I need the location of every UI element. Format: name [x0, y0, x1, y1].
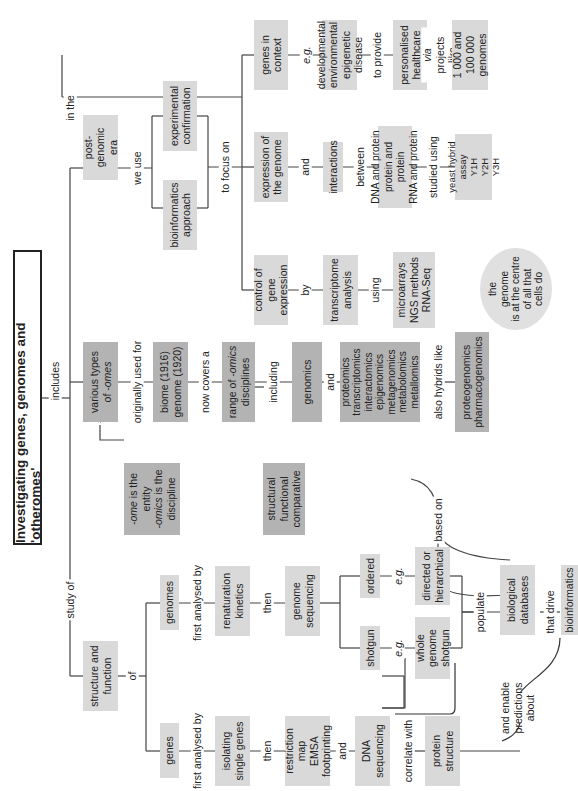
dna-protein-to-populate: [395, 663, 455, 714]
predictions-arrow-curve: [502, 723, 520, 741]
predictions-curve: [520, 638, 560, 693]
